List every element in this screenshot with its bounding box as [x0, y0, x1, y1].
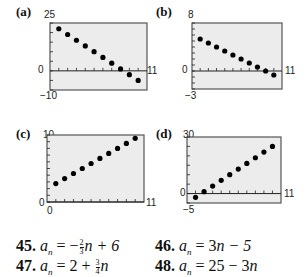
exercise-46: 46.an = 3n − 5	[155, 237, 251, 259]
fraction: 34	[96, 259, 100, 276]
var-a: a	[179, 237, 187, 254]
fraction-denominator: 4	[96, 268, 100, 276]
fraction-denominator: 3	[80, 248, 84, 256]
equation-rest: n	[101, 257, 109, 274]
scatter-plot-d	[0, 0, 307, 277]
exercise-48: 48.an = 25 − 3n	[155, 257, 258, 277]
equation-part: = −	[53, 237, 79, 254]
exercise-number: 45.	[16, 237, 36, 254]
equation-part: = 3	[192, 237, 217, 254]
equation-part: = 2 +	[53, 257, 95, 274]
equation-rest: n + 6	[85, 237, 120, 254]
exercise-47: 47.an = 2 + 34n	[16, 257, 109, 277]
var-a: a	[40, 257, 48, 274]
equation-rest: n − 5	[217, 237, 252, 254]
exercise-number: 46.	[155, 237, 175, 254]
equation-part: = 25 − 3	[192, 257, 250, 274]
exercise-number: 47.	[16, 257, 36, 274]
equation-rest: n	[250, 257, 258, 274]
exercise-45: 45.an = −23n + 6	[16, 237, 119, 259]
fraction: 23	[80, 239, 84, 256]
var-a: a	[179, 257, 187, 274]
var-a: a	[40, 237, 48, 254]
exercise-number: 48.	[155, 257, 175, 274]
